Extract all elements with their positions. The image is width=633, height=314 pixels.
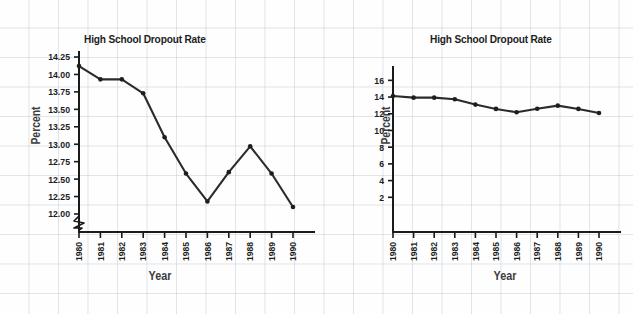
y-tick-label: 13.00: [48, 139, 70, 149]
x-tick-label: 1984: [160, 242, 170, 261]
chart-panel-left: High School Dropout Rate Percent Year 12…: [0, 0, 316, 314]
line-plot-left: 12.0012.2512.5012.7513.0013.2513.5013.75…: [0, 0, 316, 314]
data-point-marker: [98, 77, 103, 82]
y-tick-label: 8: [379, 142, 384, 152]
x-tick-label: 1983: [139, 242, 149, 261]
data-point-marker: [453, 97, 458, 102]
data-point-marker: [162, 135, 167, 140]
y-tick-label: 12.50: [48, 174, 70, 184]
x-tick-label: 1980: [388, 242, 398, 261]
data-point-marker: [120, 77, 125, 82]
y-tick-label: 12.00: [48, 209, 70, 219]
x-tick-label: 1987: [533, 242, 543, 261]
y-tick-label: 12.75: [48, 157, 70, 167]
x-tick-label: 1990: [288, 242, 298, 261]
data-point-marker: [248, 144, 253, 149]
y-tick-label: 10: [374, 126, 384, 136]
x-tick-label: 1982: [117, 242, 127, 261]
data-point-marker: [576, 107, 581, 112]
y-tick-label: 2: [379, 192, 384, 202]
data-point-marker: [269, 171, 274, 176]
data-point-marker: [77, 64, 82, 69]
y-tick-label: 13.25: [48, 122, 70, 132]
data-point-marker: [205, 199, 210, 204]
x-tick-label: 1983: [450, 242, 460, 261]
x-tick-label: 1989: [267, 242, 277, 261]
chart-panel-right: High School Dropout Rate Percent Year 24…: [317, 0, 633, 314]
y-tick-label: 14.00: [48, 70, 70, 80]
data-point-marker: [494, 107, 499, 112]
y-tick-label: 4: [379, 176, 385, 186]
x-tick-label: 1981: [409, 242, 419, 261]
data-point-marker: [597, 111, 602, 116]
x-tick-label: 1986: [203, 242, 213, 261]
x-tick-label: 1989: [574, 242, 584, 261]
y-tick-label: 14.25: [48, 52, 70, 62]
data-point-marker: [535, 106, 540, 111]
data-point-marker: [227, 170, 232, 175]
data-point-marker: [514, 110, 519, 115]
x-tick-label: 1985: [181, 242, 191, 261]
y-tick-label: 6: [379, 159, 384, 169]
x-tick-label: 1982: [430, 242, 440, 261]
x-tick-label: 1980: [74, 242, 84, 261]
data-series-line: [79, 66, 293, 207]
x-tick-label: 1985: [491, 242, 501, 261]
line-plot-right: 2468101214161980198119821983198419851986…: [317, 0, 633, 314]
x-tick-label: 1984: [471, 242, 481, 261]
x-tick-label: 1987: [224, 242, 234, 261]
data-point-marker: [473, 102, 478, 107]
data-point-marker: [432, 95, 437, 100]
x-tick-label: 1986: [512, 242, 522, 261]
y-tick-label: 14: [374, 92, 385, 102]
data-point-marker: [556, 103, 561, 108]
y-tick-label: 12: [374, 109, 384, 119]
y-tick-label: 13.75: [48, 87, 70, 97]
data-point-marker: [141, 91, 146, 96]
x-tick-label: 1981: [96, 242, 106, 261]
y-tick-label: 13.50: [48, 104, 70, 114]
data-point-marker: [291, 205, 296, 210]
data-point-marker: [184, 171, 189, 176]
x-tick-label: 1988: [553, 242, 563, 261]
x-tick-label: 1990: [594, 242, 604, 261]
y-tick-label: 16: [374, 75, 384, 85]
x-tick-label: 1988: [246, 242, 256, 261]
y-tick-label: 12.25: [48, 192, 70, 202]
data-point-marker: [411, 95, 416, 100]
data-point-marker: [391, 94, 396, 99]
